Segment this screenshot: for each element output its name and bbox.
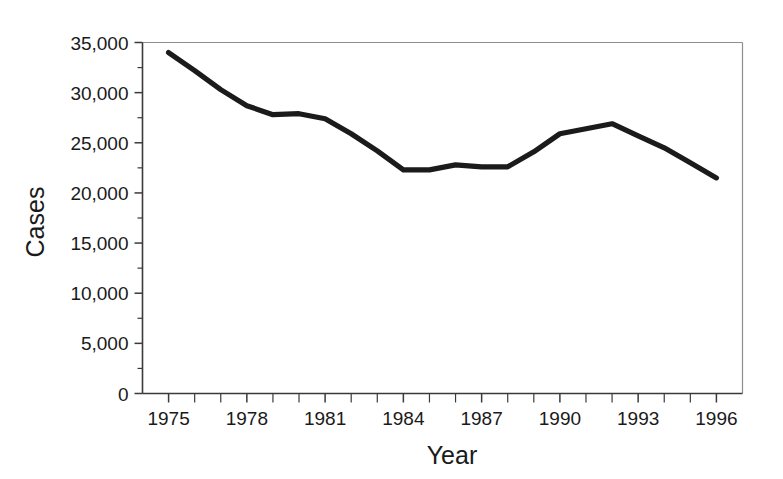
y-axis-tick-label: 30,000 <box>70 83 128 104</box>
y-axis-tick-label: 0 <box>118 384 129 405</box>
line-chart: 19751978198119841987199019931996 05,0001… <box>0 0 783 479</box>
axis-ticks <box>135 43 717 403</box>
y-axis-title: Cases <box>21 187 49 258</box>
data-series-line <box>169 53 717 178</box>
y-axis-tick-label: 15,000 <box>70 233 128 254</box>
x-axis-tick-label: 1996 <box>695 408 737 429</box>
x-axis-tick-label: 1987 <box>460 408 502 429</box>
x-axis-title: Year <box>427 441 478 469</box>
chart-figure: 19751978198119841987199019931996 05,0001… <box>0 0 783 479</box>
data-series-group <box>169 53 717 178</box>
y-axis-tick-label: 35,000 <box>70 33 128 54</box>
y-axis-tick-labels: 05,00010,00015,00020,00025,00030,00035,0… <box>70 33 128 405</box>
x-axis-tick-label: 1981 <box>304 408 346 429</box>
x-axis-tick-labels: 19751978198119841987199019931996 <box>147 408 737 429</box>
x-axis-tick-label: 1975 <box>147 408 189 429</box>
y-axis-tick-label: 10,000 <box>70 283 128 304</box>
x-axis-tick-label: 1978 <box>226 408 268 429</box>
x-axis-tick-label: 1990 <box>539 408 581 429</box>
x-axis-tick-label: 1993 <box>617 408 659 429</box>
x-axis-tick-label: 1984 <box>382 408 425 429</box>
y-axis-tick-label: 5,000 <box>81 333 129 354</box>
y-axis-tick-label: 20,000 <box>70 183 128 204</box>
y-axis-tick-label: 25,000 <box>70 133 128 154</box>
